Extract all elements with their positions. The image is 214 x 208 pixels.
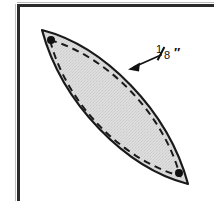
leaf-diagram-svg: [0, 0, 214, 208]
figure-container: 1 8 ″: [0, 0, 214, 208]
inch-mark-icon: ″: [174, 46, 180, 59]
fraction-one-eighth: 1 8: [156, 45, 173, 62]
seam-allowance-label: 1 8 ″: [156, 45, 179, 64]
bottom-vertex-dot: [175, 169, 183, 177]
fraction-denominator: 8: [164, 50, 170, 61]
top-vertex-dot: [47, 36, 55, 44]
